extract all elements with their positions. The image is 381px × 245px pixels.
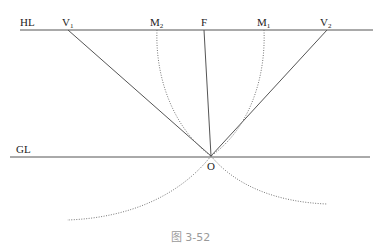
arc-lower-left	[67, 156, 211, 220]
label-m2: M2	[150, 16, 164, 30]
line-o-f	[204, 30, 211, 156]
label-gl: GL	[16, 143, 31, 155]
perspective-diagram: HL V1 M2 F M1 V2 GL O 图 3-52	[0, 0, 381, 245]
label-v1: V1	[62, 16, 74, 30]
line-o-v2	[211, 30, 327, 156]
diagram-canvas: HL V1 M2 F M1 V2 GL O	[0, 0, 381, 245]
line-o-v1	[68, 30, 211, 156]
label-m1: M1	[257, 16, 271, 30]
label-o: O	[207, 160, 215, 172]
label-hl: HL	[20, 16, 35, 28]
label-v2: V2	[320, 16, 332, 30]
arc-lower-right	[211, 156, 327, 204]
figure-caption: 图 3-52	[0, 228, 381, 244]
arc-m1-o	[211, 30, 264, 156]
caption-text: 图 3-52	[171, 228, 210, 244]
label-f: F	[201, 16, 207, 28]
arc-m2-o	[157, 30, 211, 156]
